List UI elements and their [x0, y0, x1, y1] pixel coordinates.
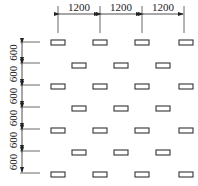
element-rect	[51, 40, 65, 45]
staggered-layout-diagram: 1200 1200 1200 600 600 600 600 600 600	[0, 0, 198, 186]
element-rect	[135, 84, 149, 89]
element-rect	[51, 84, 65, 89]
v-dim-label-3: 600	[7, 87, 19, 104]
element-rect	[156, 63, 170, 68]
element-rect	[93, 40, 107, 45]
element-rect	[135, 172, 149, 177]
v-dim-label-1: 600	[7, 44, 19, 61]
v-dim-label-6: 600	[7, 153, 19, 170]
v-dim-label-5: 600	[7, 131, 19, 148]
element-rect	[72, 150, 86, 155]
element-rect	[93, 128, 107, 133]
element-rect	[93, 172, 107, 177]
element-rect	[156, 106, 170, 111]
element-rect	[72, 106, 86, 111]
h-dim-label-3: 1200	[152, 1, 175, 13]
element-rect	[72, 63, 86, 68]
element-rect	[179, 128, 193, 133]
vertical-extension-lines	[20, 42, 40, 173]
element-rect	[114, 106, 128, 111]
v-dim-label-2: 600	[7, 65, 19, 82]
element-rect	[51, 172, 65, 177]
element-rect	[156, 150, 170, 155]
element-rect	[179, 172, 193, 177]
v-dim-label-4: 600	[7, 109, 19, 126]
element-rect	[135, 128, 149, 133]
element-rect	[135, 40, 149, 45]
element-grid	[51, 40, 193, 177]
element-rect	[179, 40, 193, 45]
element-rect	[51, 128, 65, 133]
element-rect	[179, 84, 193, 89]
h-dim-label-2: 1200	[110, 1, 133, 13]
h-dim-label-1: 1200	[68, 1, 91, 13]
element-rect	[114, 63, 128, 68]
element-rect	[114, 150, 128, 155]
element-rect	[93, 84, 107, 89]
